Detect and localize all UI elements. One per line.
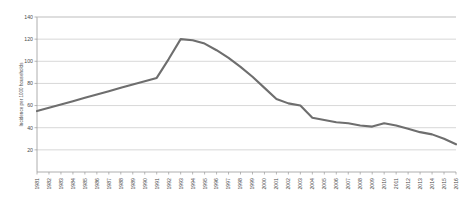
x-axis-tick-label: 1982	[46, 178, 52, 190]
x-axis-tick-label: 2008	[357, 178, 363, 190]
x-axis-tick-label: 1996	[213, 178, 219, 190]
x-axis-tick-label: 1997	[225, 178, 231, 190]
x-axis-tick-label: 2012	[405, 178, 411, 190]
x-axis-tick-label: 2015	[441, 178, 447, 190]
x-axis-tick-label: 1991	[154, 178, 160, 190]
x-axis-tick-label: 1987	[106, 178, 112, 190]
line-chart: 2040608010012014019811982198319841985198…	[0, 0, 464, 217]
x-axis-tick-label: 2005	[321, 178, 327, 190]
x-axis-tick-label: 1992	[166, 178, 172, 190]
x-axis-tick-label: 1985	[82, 178, 88, 190]
x-axis-tick-label: 1983	[58, 178, 64, 190]
y-axis-title: Incidence per 1000 households	[19, 62, 24, 127]
x-axis-tick-label: 1995	[202, 178, 208, 190]
x-axis-tick-label: 2002	[285, 178, 291, 190]
x-axis-tick-label: 1989	[130, 178, 136, 190]
x-axis-tick-label: 1984	[70, 178, 76, 190]
x-axis-tick-label: 1990	[142, 178, 148, 190]
y-axis-tick-label: 20	[27, 147, 33, 153]
x-axis-tick-label: 2003	[297, 178, 303, 190]
x-axis-tick-label: 2011	[393, 178, 399, 189]
x-axis-tick-label: 2001	[273, 178, 279, 190]
x-axis-tick-label: 1988	[118, 178, 124, 190]
x-axis-tick-label: 1999	[249, 178, 255, 190]
y-axis-tick-label: 120	[24, 36, 33, 42]
x-axis-tick-label: 1986	[94, 178, 100, 190]
x-axis-tick-label: 1994	[190, 178, 196, 190]
y-axis-tick-label: 80	[27, 80, 33, 86]
x-axis-tick-label: 2013	[417, 178, 423, 190]
x-axis-tick-label: 1998	[237, 178, 243, 190]
x-axis-tick-label: 2010	[381, 178, 387, 190]
x-axis-tick-label: 2000	[261, 178, 267, 190]
y-axis-tick-label: 100	[24, 58, 33, 64]
x-axis-tick-label: 2006	[333, 178, 339, 190]
x-axis-tick-label: 1993	[178, 178, 184, 190]
chart-canvas: 2040608010012014019811982198319841985198…	[0, 0, 464, 217]
x-axis-tick-label: 2007	[345, 178, 351, 190]
y-axis-tick-label: 40	[27, 125, 33, 131]
y-axis-tick-label: 140	[24, 14, 33, 20]
x-axis-tick-label: 2009	[369, 178, 375, 190]
y-axis-tick-label: 60	[27, 102, 33, 108]
x-axis-tick-label: 1981	[34, 178, 40, 190]
x-axis-tick-label: 2014	[429, 178, 435, 190]
x-axis-tick-label: 2004	[309, 178, 315, 190]
x-axis-tick-label: 2016	[453, 178, 459, 190]
data-series-line	[37, 39, 456, 144]
